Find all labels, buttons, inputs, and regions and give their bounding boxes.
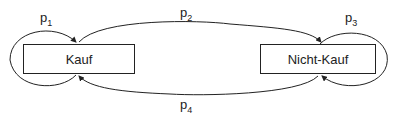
- transition-p4-arrow: [79, 76, 318, 95]
- label-p2: p2: [180, 5, 192, 23]
- label-p4: p4: [180, 97, 192, 115]
- label-p3: p3: [345, 10, 357, 28]
- transition-p2-arrow: [79, 22, 321, 42]
- label-p1: p1: [40, 10, 52, 28]
- state-kauf: Kauf: [23, 44, 135, 74]
- state-nicht-kauf-label: Nicht-Kauf: [288, 52, 349, 67]
- state-kauf-label: Kauf: [66, 52, 93, 67]
- state-nicht-kauf: Nicht-Kauf: [260, 44, 376, 74]
